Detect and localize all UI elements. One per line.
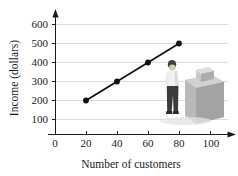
x-axis-title: Number of customers xyxy=(81,158,181,170)
data-point-40-300 xyxy=(114,79,120,85)
data-point-20-200 xyxy=(83,98,89,104)
x-tick-label-0: 0 xyxy=(52,137,58,149)
income-vs-customers-line-chart: 600 500 400 300 200 100 0 20 40 60 80 10… xyxy=(0,0,238,176)
y-tick-label-500: 500 xyxy=(32,37,49,49)
data-point-80-500 xyxy=(176,41,182,47)
y-tick-label-100: 100 xyxy=(32,113,49,125)
chart-figure: 600 500 400 300 200 100 0 20 40 60 80 10… xyxy=(0,0,238,176)
data-point-60-400 xyxy=(145,60,151,66)
x-tick-label-40: 40 xyxy=(112,137,124,149)
clipart-ground-shadow xyxy=(160,117,212,125)
y-tick-label-200: 200 xyxy=(32,94,49,106)
person-shoe-right xyxy=(173,111,179,114)
y-tick-label-400: 400 xyxy=(32,56,49,68)
x-tick-label-60: 60 xyxy=(143,137,155,149)
x-tick-label-20: 20 xyxy=(81,137,93,149)
person-shoe-left xyxy=(166,111,173,114)
y-tick-label-600: 600 xyxy=(32,18,49,30)
x-tick-label-100: 100 xyxy=(203,137,220,149)
person-face xyxy=(169,64,176,70)
y-axis-title: Income (dollars) xyxy=(8,40,21,116)
y-tick-label-300: 300 xyxy=(32,75,49,87)
x-tick-label-80: 80 xyxy=(174,137,186,149)
